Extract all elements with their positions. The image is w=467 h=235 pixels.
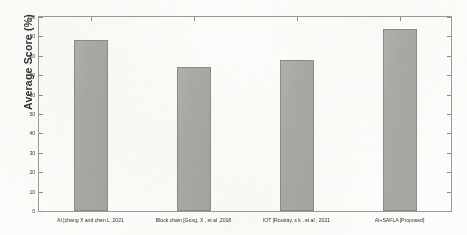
y-axis-tick <box>39 95 43 96</box>
y-axis-tick-label: 80 <box>29 53 35 59</box>
y-axis-tick-label: 50 <box>29 111 35 117</box>
bar-sheen <box>178 68 210 210</box>
x-axis-category-label: AI [chang X and chen L ,2021 <box>57 217 124 223</box>
y-axis-tick-right <box>447 211 451 212</box>
y-axis-tick-label: 100 <box>27 14 35 20</box>
y-axis-tick-label: 0 <box>32 208 35 214</box>
bar-sheen <box>384 30 416 210</box>
y-axis-tick-right <box>447 172 451 173</box>
y-axis-tick-right <box>447 153 451 154</box>
plot-area: 0102030405060708090100AI [chang X and ch… <box>38 16 452 212</box>
y-axis-tick <box>39 172 43 173</box>
y-axis-tick-label: 60 <box>29 92 35 98</box>
bar-sheen <box>75 41 107 210</box>
y-axis-tick-label: 20 <box>29 169 35 175</box>
scanned-page: Average Score (%) 0102030405060708090100… <box>0 0 467 235</box>
y-axis-tick <box>39 56 43 57</box>
bar-sheen <box>281 61 313 210</box>
y-axis-tick-right <box>447 192 451 193</box>
bar <box>280 60 314 211</box>
y-axis-tick <box>39 133 43 134</box>
x-axis-category-label: IOT [Routray, s k , et al , 2021 <box>263 217 330 223</box>
y-axis-tick-label: 30 <box>29 150 35 156</box>
y-axis-tick <box>39 75 43 76</box>
y-axis-tick-right <box>447 114 451 115</box>
bar <box>383 29 417 211</box>
y-axis-tick-label: 10 <box>29 189 35 195</box>
y-axis-tick-right <box>447 133 451 134</box>
bar <box>177 67 211 211</box>
y-axis-tick-right <box>447 75 451 76</box>
y-axis-tick <box>39 153 43 154</box>
y-axis-tick-right <box>447 36 451 37</box>
y-axis-tick-label: 40 <box>29 130 35 136</box>
x-axis-tick-top <box>194 17 195 21</box>
y-axis-tick-right <box>447 17 451 18</box>
x-axis-category-label: Block chain [Gong, X , et al ,2018 <box>156 217 231 223</box>
y-axis-tick-right <box>447 56 451 57</box>
x-axis-category-label: AI+SAFLA [Proposed] <box>375 217 425 223</box>
bar <box>74 40 108 211</box>
y-axis-tick-right <box>447 95 451 96</box>
plot-inner: 0102030405060708090100AI [chang X and ch… <box>39 17 451 211</box>
y-axis-tick-label: 90 <box>29 33 35 39</box>
x-axis-tick-top <box>400 17 401 21</box>
y-axis-title: Average Score (%) <box>22 0 34 142</box>
y-axis-tick <box>39 17 43 18</box>
y-axis-tick <box>39 211 43 212</box>
y-axis-tick <box>39 192 43 193</box>
bar-chart-figure: Average Score (%) 0102030405060708090100… <box>0 0 467 235</box>
y-axis-tick <box>39 114 43 115</box>
x-axis-tick-top <box>91 17 92 21</box>
y-axis-tick-label: 70 <box>29 72 35 78</box>
x-axis-tick-top <box>297 17 298 21</box>
y-axis-tick <box>39 36 43 37</box>
